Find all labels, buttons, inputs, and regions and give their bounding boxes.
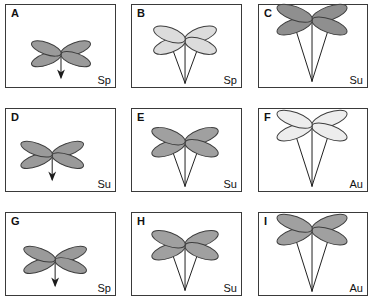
flower-glyph	[259, 213, 367, 295]
flower-glyph	[259, 109, 367, 191]
flower-glyph	[132, 5, 241, 87]
flower-glyph	[132, 109, 241, 191]
panel-c: CSu	[258, 4, 368, 88]
flower-glyph	[259, 5, 367, 87]
panel-b: BSp	[131, 4, 242, 88]
panel-a: ASp	[5, 4, 116, 88]
panel-h: HSu	[131, 212, 242, 296]
panel-g: GSp	[5, 212, 116, 296]
flower-glyph	[6, 5, 115, 87]
flower-glyph	[6, 213, 115, 295]
figure-panel-grid: ASpBSpCSuDSuESuFAuGSpHSuIAu	[0, 0, 371, 298]
flower-glyph	[6, 109, 115, 191]
flower-glyph	[132, 213, 241, 295]
panel-i: IAu	[258, 212, 368, 296]
panel-e: ESu	[131, 108, 242, 192]
panel-f: FAu	[258, 108, 368, 192]
panel-d: DSu	[5, 108, 116, 192]
